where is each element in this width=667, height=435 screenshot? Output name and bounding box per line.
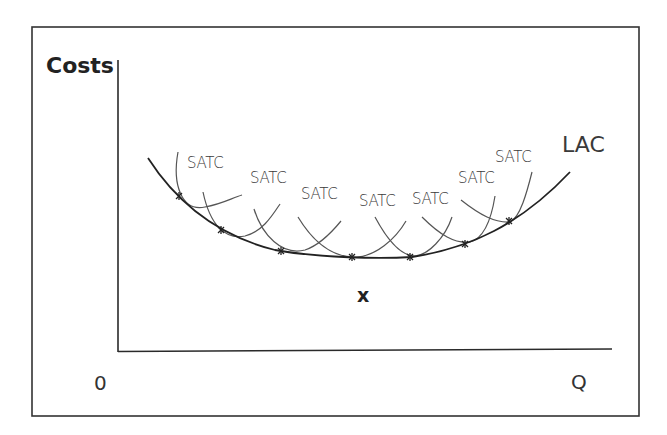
satc-label-2: SATC xyxy=(250,169,286,187)
satc-label-3: SATC xyxy=(301,185,337,203)
satc-label-6: SATC xyxy=(458,169,494,187)
origin-label: 0 xyxy=(94,371,107,395)
satc-curve-2 xyxy=(203,192,280,237)
satc-curve-5 xyxy=(375,217,452,256)
satc-curve-4 xyxy=(298,217,406,257)
satc-curves xyxy=(176,152,532,257)
minimum-point-label: x xyxy=(357,284,369,306)
y-axis-label: Costs xyxy=(46,53,114,78)
satc-curve-3 xyxy=(254,209,341,251)
x-axis xyxy=(118,349,612,352)
satc-label-4: SATC xyxy=(359,192,395,210)
satc-label-5: SATC xyxy=(412,190,448,208)
satc-label-7: SATC xyxy=(495,148,531,166)
x-axis-label: Q xyxy=(571,370,587,394)
frame-border xyxy=(32,27,639,416)
lac-label: LAC xyxy=(562,132,605,157)
tangency-points xyxy=(176,192,512,261)
satc-label-1: SATC xyxy=(187,154,223,172)
lac-satc-diagram: Costs Q 0 SATC SATC SATC SATC SATC SATC … xyxy=(0,0,667,435)
